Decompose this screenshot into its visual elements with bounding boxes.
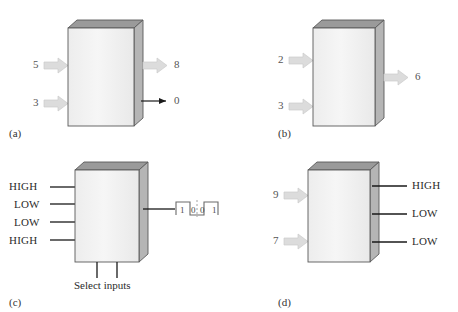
box-top-face — [68, 20, 143, 28]
panel-b-graphics — [229, 0, 458, 156]
panel-a-tag: (a) — [9, 128, 21, 139]
output-line-arrow-1 — [141, 98, 166, 104]
box-top-face — [308, 162, 379, 170]
box-top-face — [313, 20, 384, 28]
input-block-arrow-1 — [289, 53, 313, 68]
box-side-face — [375, 20, 384, 126]
panel-c-input-label-1: HIGH — [9, 181, 37, 192]
panel-b-output-label-1: 6 — [415, 71, 421, 82]
panel-a-input-label-1: 5 — [33, 59, 39, 70]
panel-b: 2 3 6 (b) — [229, 0, 458, 156]
input-block-arrow-1 — [284, 188, 308, 203]
waveform-digit-4: 1 — [212, 206, 217, 215]
input-block-arrow-2 — [44, 96, 68, 111]
output-block-arrow-1 — [384, 70, 408, 85]
panel-c-input-label-3: LOW — [14, 217, 40, 228]
panel-b-input-label-2: 3 — [278, 100, 284, 111]
panel-a-graphics — [0, 0, 229, 156]
panel-a-input-label-2: 3 — [33, 97, 39, 108]
waveform-digit-2: 0 — [191, 206, 196, 215]
output-block-arrow-1 — [143, 58, 167, 73]
panel-d-output-label-3: LOW — [412, 236, 438, 247]
panel-a-output-label-1: 8 — [174, 59, 180, 70]
box-front-face — [68, 28, 134, 126]
box-side-face — [370, 162, 379, 262]
panel-d-output-label-2: LOW — [412, 208, 438, 219]
select-inputs-caption: Select inputs — [74, 280, 131, 291]
panel-b-tag: (b) — [278, 128, 291, 139]
panel-a-output-label-2: 0 — [174, 95, 180, 106]
box-side-face — [139, 162, 148, 262]
panel-c-tag: (c) — [9, 297, 21, 308]
panel-c: HIGH LOW LOW HIGH 1 0 0 1 Select inputs … — [0, 156, 229, 312]
panel-b-input-label-1: 2 — [278, 54, 284, 65]
box-front-face — [313, 28, 375, 126]
box-top-face — [75, 162, 148, 170]
box-side-face — [134, 20, 143, 126]
box-front-face — [75, 170, 139, 262]
panel-d-tag: (d) — [278, 297, 291, 308]
panel-d: 9 7 HIGH LOW LOW (d) — [229, 156, 458, 312]
panel-d-output-label-1: HIGH — [412, 180, 440, 191]
input-block-arrow-1 — [44, 58, 68, 73]
panel-d-input-label-1: 9 — [273, 189, 279, 200]
input-block-arrow-2 — [289, 99, 313, 114]
waveform-digit-1: 1 — [180, 206, 185, 215]
panel-d-input-label-2: 7 — [273, 235, 279, 246]
figure-root: 5 3 8 0 (a) — [0, 0, 458, 312]
panel-a: 5 3 8 0 (a) — [0, 0, 229, 156]
waveform-digit-3: 0 — [200, 206, 205, 215]
box-front-face — [308, 170, 370, 262]
panel-c-input-label-2: LOW — [14, 199, 40, 210]
panel-c-input-label-4: HIGH — [9, 235, 37, 246]
input-block-arrow-2 — [284, 234, 308, 249]
